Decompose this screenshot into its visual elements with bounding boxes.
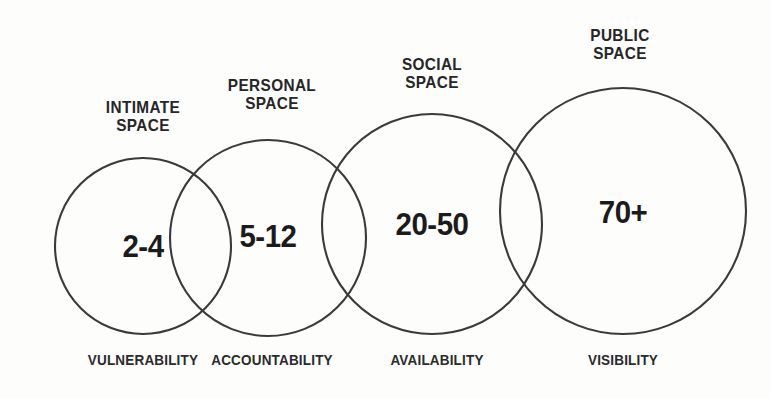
zone-title-public: PUBLIC SPACE bbox=[518, 26, 723, 63]
zone-count-social: 20-50 bbox=[328, 208, 537, 243]
proxemics-diagram: INTIMATE SPACE2-4VULNERABILITYPERSONAL S… bbox=[0, 0, 771, 399]
zone-count-public: 70+ bbox=[519, 196, 728, 231]
zone-attribute-social: AVAILABILITY bbox=[334, 352, 541, 369]
zone-attribute-public: VISIBILITY bbox=[520, 352, 727, 369]
zone-title-social: SOCIAL SPACE bbox=[330, 55, 535, 92]
